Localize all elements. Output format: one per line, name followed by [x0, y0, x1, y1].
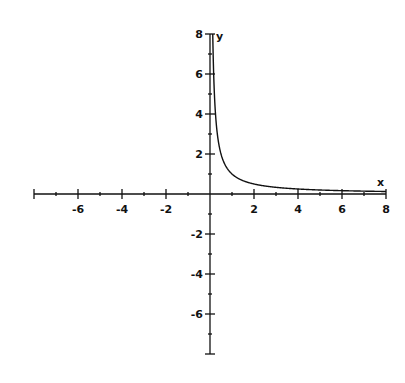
function-plot: -6-4-224688642-2-4-6 x y: [0, 0, 405, 383]
x-tick-label: -6: [72, 203, 85, 216]
y-axis-label: y: [216, 30, 223, 43]
x-tick-label: -2: [160, 203, 172, 216]
tick-labels: -6-4-224688642-2-4-6: [72, 28, 390, 321]
axes: [34, 34, 386, 354]
curve-line: [213, 34, 386, 192]
x-tick-label: 2: [250, 203, 258, 216]
x-axis-label: x: [377, 176, 384, 189]
y-tick-label: 6: [195, 68, 203, 81]
x-tick-label: 4: [294, 203, 302, 216]
y-tick-label: 8: [195, 28, 203, 41]
x-tick-label: 8: [382, 203, 390, 216]
y-tick-label: 4: [195, 108, 203, 121]
y-tick-label: 2: [195, 148, 203, 161]
x-tick-label: 6: [338, 203, 346, 216]
x-tick-label: -4: [116, 203, 129, 216]
y-tick-label: -2: [191, 228, 203, 241]
y-tick-label: -4: [191, 268, 204, 281]
y-tick-label: -6: [191, 308, 204, 321]
